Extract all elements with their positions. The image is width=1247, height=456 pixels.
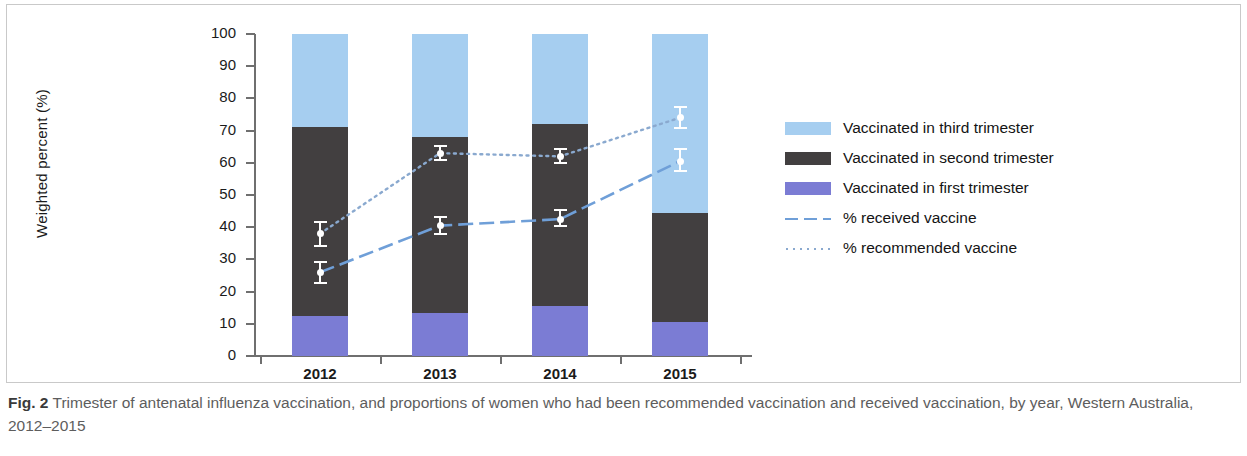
error-bar-cap-bottom [314, 245, 327, 247]
figure-panel: Weighted percent (%) 0102030405060708090… [6, 4, 1241, 382]
data-point-recommended-2014 [557, 153, 564, 160]
legend-swatch-line-dotted-icon [785, 242, 831, 255]
legend-label-4: % recommended vaccine [843, 239, 1017, 257]
figure-divider [6, 382, 1241, 383]
error-bar-cap-bottom [554, 225, 567, 227]
legend-swatch-line-dashed-icon [785, 212, 831, 225]
error-bar-cap-bottom [314, 282, 327, 284]
error-bar-cap-top [674, 148, 687, 150]
error-bar-cap-top [674, 106, 687, 108]
legend-label-1: Vaccinated in second trimester [843, 149, 1054, 167]
data-point-recommended-2015 [677, 114, 684, 121]
error-bar-cap-top [554, 148, 567, 150]
chart-legend: Vaccinated in third trimesterVaccinated … [785, 113, 1215, 263]
figure-page: Weighted percent (%) 0102030405060708090… [0, 0, 1247, 456]
error-bar-cap-top [554, 209, 567, 211]
data-point-received-2012 [317, 269, 324, 276]
error-bar-cap-bottom [434, 159, 447, 161]
error-bar-cap-bottom [674, 170, 687, 172]
error-bar-cap-bottom [434, 233, 447, 235]
error-bar-cap-bottom [554, 162, 567, 164]
legend-item-4: % recommended vaccine [785, 233, 1215, 263]
legend-label-3: % received vaccine [843, 209, 977, 227]
legend-swatch-swatch-light-blue-icon [785, 122, 831, 135]
figure-number: Fig. 2 [8, 394, 48, 411]
legend-item-2: Vaccinated in first trimester [785, 173, 1215, 203]
data-point-recommended-2012 [317, 230, 324, 237]
legend-label-0: Vaccinated in third trimester [843, 119, 1034, 137]
data-point-recommended-2013 [437, 150, 444, 157]
data-point-received-2013 [437, 222, 444, 229]
recommended-vaccine-line [320, 118, 680, 234]
legend-swatch-swatch-dark-gray-icon [785, 152, 831, 165]
error-bar-cap-top [314, 261, 327, 263]
error-bar-cap-top [314, 221, 327, 223]
legend-label-2: Vaccinated in first trimester [843, 179, 1029, 197]
data-point-received-2015 [677, 158, 684, 165]
legend-item-1: Vaccinated in second trimester [785, 143, 1215, 173]
legend-item-3: % received vaccine [785, 203, 1215, 233]
data-point-received-2014 [557, 216, 564, 223]
error-bar-cap-top [434, 216, 447, 218]
figure-caption-text: Trimester of antenatal influenza vaccina… [8, 394, 1193, 434]
received-vaccine-line [320, 161, 680, 272]
legend-swatch-swatch-purple-icon [785, 182, 831, 195]
figure-caption: Fig. 2 Trimester of antenatal influenza … [8, 392, 1198, 438]
error-bar-cap-top [434, 145, 447, 147]
legend-item-0: Vaccinated in third trimester [785, 113, 1215, 143]
error-bar-cap-bottom [674, 127, 687, 129]
